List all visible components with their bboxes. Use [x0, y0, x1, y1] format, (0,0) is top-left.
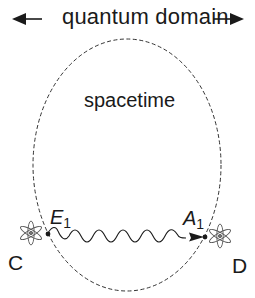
atom-label-right: D: [232, 255, 247, 276]
atom-icon: [208, 224, 232, 248]
absorber-point: [203, 235, 208, 240]
absorber-label: A1: [183, 208, 204, 231]
region-label: spacetime: [84, 90, 175, 110]
spacetime-boundary: [33, 39, 221, 291]
diagram-title: quantum domain: [62, 6, 229, 28]
wave-arrowhead-icon: [189, 233, 204, 242]
emitter-label: E1: [50, 207, 71, 230]
quantum-spacetime-diagram: [0, 0, 255, 298]
atom-icon: [19, 221, 43, 245]
arrow-left-icon: [12, 13, 42, 25]
atom-label-left: C: [8, 252, 23, 273]
emitter-point: [46, 232, 51, 237]
